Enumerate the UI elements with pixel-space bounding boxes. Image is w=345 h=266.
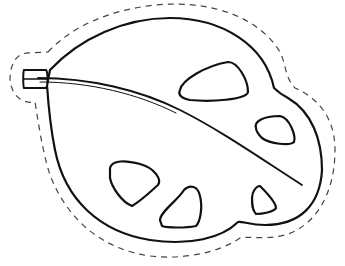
leaf-cutout-figure: leaf — [0, 0, 345, 266]
